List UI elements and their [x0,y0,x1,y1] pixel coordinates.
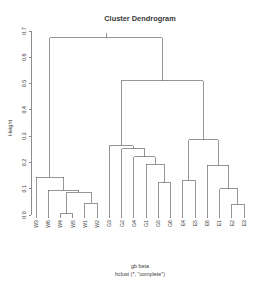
leaf-label-g4: G4 [131,220,137,227]
dendrogram-branch [67,192,91,213]
y-axis-tick-label: 0.3 [21,132,27,140]
leaf-label-w6: W6 [45,220,51,228]
dendrogram-branch [232,204,244,215]
dendrogram-branch [48,190,79,215]
y-axis-tick-label: 0.0 [21,211,27,219]
dendrogram-branch [122,149,145,216]
leaf-label-e5: E5 [192,220,198,226]
dendrogram-branch [60,214,72,215]
dendrogram-branch [134,157,155,215]
leaf-label-e4: E4 [180,220,186,226]
leaf-label-g6: G6 [167,220,173,227]
leaf-label-w3: W3 [33,220,39,228]
leaf-label-e2: E2 [229,220,235,226]
leaf-label-g1: G1 [143,220,149,227]
leaf-label-w2: W2 [94,220,100,228]
dendrogram-branch [220,189,238,215]
leaf-label-e1: E1 [216,220,222,226]
y-axis-tick-label: 0.4 [21,106,27,114]
caption-line-2: hclust (*, "complete") [115,271,165,277]
leaf-label-w4: W4 [57,220,63,228]
dendrogram-branch [36,177,64,215]
dendrogram-branches [36,33,244,215]
dendrogram-branch [183,180,195,215]
dendrogram-branch [85,203,97,215]
leaf-label-w5: W5 [70,220,76,228]
y-axis-tick-label: 0.5 [21,80,27,88]
y-axis-title: Height [7,119,13,136]
y-axis-tick-label: 0.6 [21,54,27,62]
y-axis-tick-label: 0.2 [21,159,27,167]
dendrogram-branch [207,165,228,215]
leaf-labels: W3W6W4W5W1W2G3G2G4G1G5G6E4E5E6E1E2E3 [33,215,247,228]
dendrogram-branch [146,164,164,215]
y-axis-tick-label: 0.1 [21,185,27,193]
dendrogram-canvas: 0.00.10.20.30.40.50.60.7 W3W6W4W5W1W2G3G… [0,0,279,292]
leaf-label-g3: G3 [106,220,112,227]
y-axis-tick-label: 0.7 [21,27,27,35]
dendrogram-branch [158,183,170,215]
dendrogram-branch [50,38,163,178]
leaf-label-g2: G2 [119,220,125,227]
cluster-dendrogram-plot: 0.00.10.20.30.40.50.60.7 W3W6W4W5W1W2G3G… [0,0,279,292]
y-axis: 0.00.10.20.30.40.50.60.7 [21,27,31,219]
leaf-label-e3: E3 [241,220,247,226]
dendrogram-branch [121,81,203,146]
caption-line-1: gb beta [131,263,149,269]
leaf-label-w1: W1 [82,220,88,228]
leaf-label-e6: E6 [204,220,210,226]
leaf-label-g5: G5 [155,220,161,227]
dendrogram-branch [189,140,218,180]
dendrogram-branch [109,146,133,215]
chart-title: Cluster Dendrogram [104,14,176,23]
